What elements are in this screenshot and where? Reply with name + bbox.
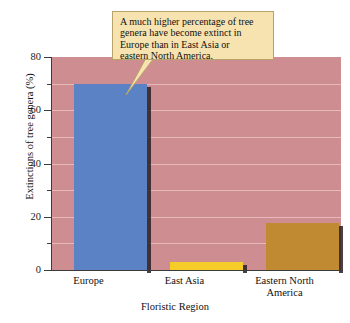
callout-tail-icon [124,58,154,96]
y-tick-label-20: 20 [1,212,41,223]
y-tick-80 [44,57,52,58]
x-tick-label-eastern-north-america-line1: Eastern North [255,275,314,286]
bar-east-asia-shadow [243,265,247,273]
y-tick-20 [44,217,52,218]
bar-eastern-north-america-shadow [339,226,343,273]
y-tick-0 [44,270,52,271]
y-tick-10 [47,243,52,244]
x-axis-line [51,270,342,271]
y-tick-40 [44,164,52,165]
y-tick-label-0: 0 [1,265,41,276]
y-tick-label-60: 60 [1,105,41,116]
y-tick-label-80: 80 [1,52,41,63]
bar-east-asia-face [170,262,243,270]
y-tick-60 [44,110,52,111]
bar-europe-shadow [147,87,151,273]
bar-eastern-north-america-face [266,223,339,270]
x-tick-label-eastern-north-america-line2: America [266,287,302,298]
annotation-line-3: Europe than in East Asia or [120,39,267,50]
bar-europe[interactable] [74,84,147,270]
annotation-line-2: genera have become extinct in [120,27,267,38]
bar-chart-figure: 80 60 40 20 0 Extinctions of tree genera… [0,0,350,323]
bar-europe-face [74,84,147,270]
y-tick-70 [47,84,52,85]
annotation-line-1: A much higher percentage of tree [120,16,267,27]
y-tick-50 [47,137,52,138]
x-tick-label-eastern-north-america: Eastern North America [232,275,337,299]
y-axis-title: Extinctions of tree genera (%) [24,42,35,232]
x-tick-label-east-asia: East Asia [136,275,233,287]
x-tick-label-europe: Europe [40,275,137,287]
annotation-callout: A much higher percentage of tree genera … [112,11,274,60]
bar-east-asia[interactable] [170,262,243,270]
x-axis-title: Floristic Region [0,301,350,312]
y-tick-label-40: 40 [1,159,41,170]
plot-area [52,57,341,270]
bar-eastern-north-america[interactable] [266,223,339,270]
y-tick-30 [47,190,52,191]
annotation-line-4: eastern North America. [120,50,267,61]
